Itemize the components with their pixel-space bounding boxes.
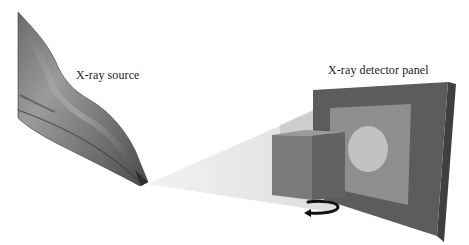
xray-diagram: [0, 0, 469, 245]
projection-circle: [348, 126, 388, 172]
sample-cube: [272, 130, 345, 200]
xray-source: [18, 12, 148, 186]
detector-panel-label: X-ray detector panel: [328, 63, 429, 78]
xray-source-label: X-ray source: [76, 68, 140, 83]
